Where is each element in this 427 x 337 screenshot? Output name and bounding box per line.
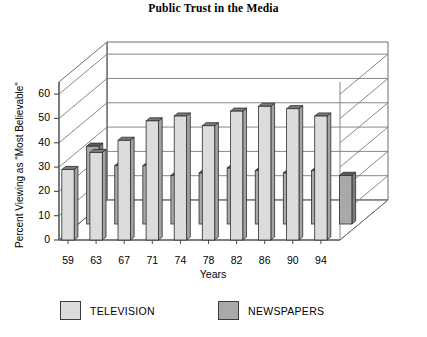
- x-tick-label-63: 63: [84, 254, 108, 266]
- y-tick-label: 60: [26, 87, 50, 99]
- bar-side-face: [299, 106, 303, 240]
- x-tick-label-74: 74: [168, 254, 192, 266]
- x-tick-label-59: 59: [56, 254, 80, 266]
- bar-front-face: [202, 126, 214, 240]
- legend-item-newspapers: NEWSPAPERS: [218, 301, 324, 320]
- legend-label-newspapers: NEWSPAPERS: [248, 305, 324, 317]
- legend-label-television: TELEVISION: [90, 305, 155, 317]
- chart-canvas: [0, 22, 427, 272]
- legend-swatch-newspapers: [218, 301, 239, 320]
- bar-television-86: [259, 103, 275, 240]
- bar-side-face: [215, 123, 219, 240]
- bar-side-face: [158, 118, 162, 240]
- x-tick-label-86: 86: [253, 254, 277, 266]
- y-tick-label: 40: [26, 136, 50, 148]
- y-tick-label: 20: [26, 184, 50, 196]
- bar-front-face: [62, 170, 74, 240]
- chart-legend: TELEVISION NEWSPAPERS: [0, 296, 427, 330]
- chart-root: Public Trust in the Media Percent Viewin…: [0, 0, 427, 337]
- bar-television-63: [90, 149, 106, 240]
- x-tick-label-71: 71: [140, 254, 164, 266]
- y-axis-title: Percent Viewing as "Most Believable": [14, 82, 25, 248]
- bar-side-face: [102, 149, 106, 240]
- bar-newspapers-94: [340, 172, 356, 224]
- legend-item-television: TELEVISION: [60, 301, 155, 320]
- x-tick-label-90: 90: [281, 254, 305, 266]
- y-tick-label: 50: [26, 111, 50, 123]
- chart-title: Public Trust in the Media: [0, 2, 427, 14]
- floor-plane: [59, 200, 388, 240]
- bar-side-face: [243, 108, 247, 240]
- bar-front-face: [340, 175, 352, 224]
- x-tick-label-94: 94: [309, 254, 333, 266]
- bar-television-67: [118, 137, 134, 240]
- bar-television-74: [174, 113, 190, 240]
- plot-area: [0, 22, 427, 272]
- y-tick-label: 0: [26, 233, 50, 245]
- bar-television-59: [62, 166, 78, 240]
- bar-front-face: [230, 111, 242, 240]
- bar-side-face: [130, 137, 134, 240]
- legend-swatch-television: [60, 301, 81, 320]
- x-tick-label-82: 82: [225, 254, 249, 266]
- bar-front-face: [287, 109, 299, 240]
- x-tick-label-78: 78: [196, 254, 220, 266]
- bar-television-78: [202, 123, 218, 240]
- y-tick-label: 30: [26, 160, 50, 172]
- y-tick-label: 10: [26, 209, 50, 221]
- x-axis-title: Years: [173, 268, 253, 280]
- bar-television-71: [146, 118, 162, 240]
- bar-side-face: [74, 166, 78, 240]
- bar-side-face: [271, 103, 275, 240]
- bar-front-face: [174, 116, 186, 240]
- bar-front-face: [315, 116, 327, 240]
- bar-television-82: [230, 108, 246, 240]
- bar-front-face: [146, 121, 158, 240]
- bar-side-face: [352, 172, 356, 224]
- bar-television-94: [315, 113, 331, 240]
- bar-front-face: [259, 106, 271, 240]
- x-tick-label-67: 67: [112, 254, 136, 266]
- bar-television-90: [287, 106, 303, 240]
- bar-side-face: [187, 113, 191, 240]
- bar-front-face: [118, 140, 130, 240]
- bar-side-face: [327, 113, 331, 240]
- bar-front-face: [90, 152, 102, 240]
